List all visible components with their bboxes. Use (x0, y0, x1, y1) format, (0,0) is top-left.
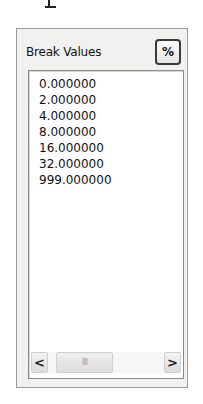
list-item[interactable]: 16.000000 (39, 140, 112, 156)
horizontal-scrollbar[interactable]: < IIII > (31, 352, 181, 373)
percent-toggle-button[interactable]: % (155, 39, 181, 65)
grip-icon: IIII (82, 358, 87, 367)
chevron-right-icon: > (167, 355, 178, 370)
chevron-left-icon: < (34, 355, 45, 370)
scroll-right-button[interactable]: > (164, 352, 181, 373)
list-item[interactable]: 0.000000 (39, 76, 112, 92)
list-item[interactable]: 2.000000 (39, 92, 112, 108)
panel-title: Break Values (26, 45, 101, 59)
percent-icon: % (162, 45, 174, 59)
scroll-left-button[interactable]: < (31, 352, 48, 373)
list-item[interactable]: 32.000000 (39, 156, 112, 172)
break-values-list[interactable]: 0.000000 2.000000 4.000000 8.000000 16.0… (28, 70, 184, 379)
break-values-panel: Break Values % 0.000000 2.000000 4.00000… (16, 28, 188, 388)
list-item[interactable]: 999.000000 (39, 172, 112, 188)
list-item[interactable]: 8.000000 (39, 124, 112, 140)
list-item[interactable]: 4.000000 (39, 108, 112, 124)
cropped-text-fragment (48, 0, 56, 8)
scrollbar-thumb[interactable]: IIII (56, 352, 113, 373)
